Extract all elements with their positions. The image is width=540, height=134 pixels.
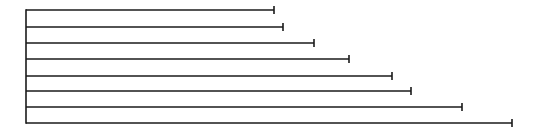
bar-line-3: [26, 39, 314, 47]
bar-line-1: [26, 6, 274, 14]
bar-line-4: [26, 55, 349, 63]
bar-line-5: [26, 72, 392, 80]
bar-line-8: [26, 119, 512, 127]
bar-lines-group: [26, 6, 512, 127]
bar-line-2: [26, 23, 283, 31]
bar-diagram: [0, 0, 540, 134]
bar-line-7: [26, 103, 462, 111]
bar-line-6: [26, 87, 411, 95]
